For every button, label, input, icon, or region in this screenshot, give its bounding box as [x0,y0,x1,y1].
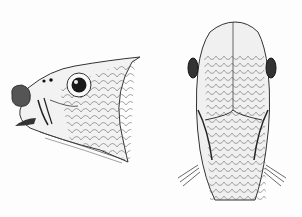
nostril [42,79,45,82]
illustration-canvas [0,0,302,217]
fish-lateral-view [0,0,302,217]
fish-dorsal-view [178,22,286,200]
